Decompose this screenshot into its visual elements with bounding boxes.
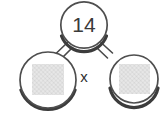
node-addend-right — [110, 55, 158, 108]
node-addend-left — [20, 52, 76, 109]
total-label: 14 — [72, 13, 96, 36]
addend-left-hatch-overlay — [32, 64, 64, 95]
multiply-operator: x — [80, 68, 88, 85]
node-total: 14 — [61, 2, 107, 52]
number-bond-diagram: 14 x — [0, 0, 162, 118]
diagram-canvas: 14 x — [0, 0, 162, 118]
addend-right-hatch-overlay — [119, 64, 150, 94]
